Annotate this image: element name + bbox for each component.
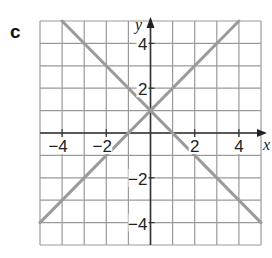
coordinate-graph: −4−22442−2−4xy bbox=[0, 0, 272, 258]
y-tick-label: −4 bbox=[128, 215, 147, 234]
x-axis-label: x bbox=[262, 136, 270, 153]
axes bbox=[40, 17, 267, 245]
y-tick-label: 4 bbox=[138, 35, 147, 54]
tick-labels: −4−22442−2−4xy bbox=[48, 16, 270, 234]
y-tick-label: −2 bbox=[128, 170, 147, 189]
y-axis-arrow-icon bbox=[147, 17, 155, 28]
x-tick-label: −2 bbox=[93, 137, 112, 156]
x-tick-label: 4 bbox=[234, 137, 243, 156]
line-y-x-1 bbox=[62, 21, 261, 223]
x-tick-label: −4 bbox=[48, 137, 67, 156]
y-axis-label: y bbox=[133, 16, 143, 34]
y-tick-label: 2 bbox=[138, 80, 147, 99]
x-tick-label: 2 bbox=[190, 137, 199, 156]
